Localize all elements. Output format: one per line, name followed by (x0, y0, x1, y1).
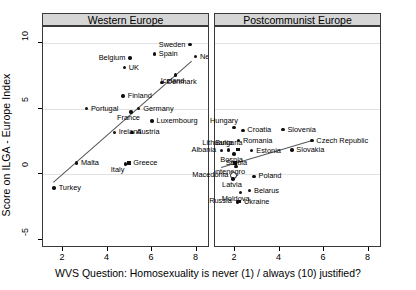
y-tick-label: -5 (20, 228, 30, 248)
data-point (250, 149, 253, 152)
point-label: Russia (209, 197, 232, 205)
x-tick-label: 6 (144, 252, 158, 262)
point-label: Germany (143, 105, 173, 113)
x-tick-mark (279, 247, 280, 251)
data-point (241, 129, 244, 132)
gridline (43, 174, 208, 175)
point-label: Czech Republic (316, 137, 368, 145)
x-tick-label: 8 (361, 252, 375, 262)
data-point (85, 107, 88, 110)
data-point (153, 52, 156, 55)
data-point (220, 149, 223, 152)
gridline (215, 109, 380, 110)
x-tick-mark (196, 247, 197, 251)
y-tick-label: 5 (20, 97, 30, 117)
point-label: Malta (81, 159, 99, 167)
data-point (160, 81, 163, 84)
x-tick-label: 2 (55, 252, 69, 262)
data-point (113, 131, 116, 134)
point-label: Turkey (59, 184, 81, 192)
data-point (248, 189, 251, 192)
x-tick-label: 4 (272, 252, 286, 262)
point-label: Belarus (254, 187, 279, 195)
y-tick-label: 10 (20, 31, 30, 51)
point-label: Netherlands (200, 53, 209, 61)
x-tick-mark (234, 247, 235, 251)
data-point (75, 161, 78, 164)
data-point (290, 148, 293, 151)
data-point (128, 56, 131, 59)
data-point (227, 148, 230, 151)
data-point (150, 119, 153, 122)
panel-title-postcommunist-europe: Postcommunist Europe (214, 13, 381, 26)
x-tick-label: 2 (227, 252, 241, 262)
gridline (43, 109, 208, 110)
gridline (215, 43, 380, 44)
data-point (252, 175, 255, 178)
data-point (236, 200, 239, 203)
point-label: Estonia (256, 147, 281, 155)
y-tick-label: 0 (20, 162, 30, 182)
data-point (236, 148, 240, 151)
point-label: Spain (159, 50, 178, 58)
data-point (52, 186, 55, 189)
point-label: Slovenia (287, 126, 315, 134)
x-tick-label: 8 (189, 252, 203, 262)
point-label: Romania (243, 137, 273, 145)
point-label: Finland (128, 92, 152, 100)
data-point (121, 94, 124, 97)
x-axis-label: WVS Question: Homosexuality is never (1)… (0, 267, 416, 279)
point-label: Greece (133, 159, 157, 167)
data-point (232, 126, 235, 129)
data-point (137, 107, 140, 110)
data-point (281, 128, 284, 131)
point-label: Portugal (91, 105, 119, 113)
panel-postcommunist-europe: CroatiaSloveniaRomaniaCzech RepublicEsto… (214, 26, 381, 247)
data-point (123, 66, 126, 69)
x-tick-label: 6 (316, 252, 330, 262)
point-label: Slovakia (296, 146, 324, 154)
point-label: Belgium (99, 54, 126, 62)
x-tick-mark (323, 247, 324, 251)
point-label: Denmark (167, 78, 197, 86)
x-tick-mark (151, 247, 152, 251)
point-label: Albania (192, 146, 217, 154)
point-label: France (117, 114, 140, 122)
y-axis-label: Score on ILGA - Europe Index (0, 0, 13, 290)
point-label: Sweden (159, 41, 186, 49)
data-point (310, 139, 313, 142)
panel-western-europe: SwedenSpainBelgiumUKNetherlandsIcelandDe… (42, 26, 209, 247)
point-label: Hungary (210, 117, 238, 125)
x-tick-mark (107, 247, 108, 251)
x-tick-mark (368, 247, 369, 251)
data-point (188, 43, 191, 46)
x-tick-label: 4 (100, 252, 114, 262)
point-label: Latvia (222, 181, 242, 189)
data-point (127, 161, 131, 164)
panel-title-western-europe: Western Europe (42, 13, 209, 26)
point-label: Croatia (247, 126, 271, 134)
point-label: Ukraine (244, 198, 269, 206)
point-label: UK (129, 64, 139, 72)
point-label: Ireland (119, 128, 142, 136)
point-label: Macedonia (192, 171, 228, 179)
point-label: Poland (258, 172, 281, 180)
scatter-plot-figure: Score on ILGA - Europe Index 1050-524682… (0, 0, 416, 290)
point-label: Luxembourg (157, 117, 198, 125)
point-label: Italy (111, 166, 125, 174)
x-tick-mark (62, 247, 63, 251)
data-point (194, 55, 197, 58)
